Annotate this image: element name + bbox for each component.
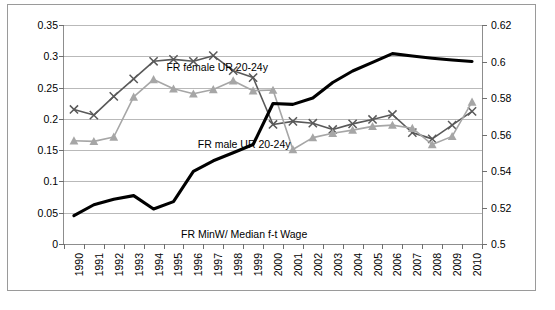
right-axis-tick <box>482 25 487 26</box>
x-axis-label: 2001 <box>293 253 304 276</box>
x-axis-tick <box>303 244 304 249</box>
left-axis-label: 0.05 <box>38 207 58 218</box>
x-axis-tick <box>243 244 244 249</box>
x-axis-tick <box>442 244 443 249</box>
left-axis-label: 0.1 <box>43 176 58 187</box>
x-axis-tick <box>144 244 145 249</box>
x-axis-label: 1997 <box>213 253 224 276</box>
x-axis-label: 2006 <box>392 253 403 276</box>
x-axis-tick <box>482 244 483 249</box>
x-axis-tick <box>84 244 85 249</box>
right-axis-label: 0.52 <box>491 202 511 213</box>
plot-area: 00.050.10.150.20.250.30.350.50.520.540.5… <box>63 25 483 244</box>
data-point-marker <box>130 75 138 83</box>
x-axis-label: 1996 <box>193 253 204 276</box>
left-axis-label: 0.2 <box>43 114 58 125</box>
series-annotation: FR MinW/ Median f-t Wage <box>181 229 307 240</box>
x-axis-tick <box>283 244 284 249</box>
x-axis-tick <box>363 244 364 249</box>
x-axis-tick <box>183 244 184 249</box>
right-axis-tick <box>482 208 487 209</box>
figure-caption <box>0 296 555 309</box>
x-axis-tick <box>343 244 344 249</box>
x-axis-label: 2002 <box>313 253 324 276</box>
x-axis-tick <box>382 244 383 249</box>
x-axis-tick <box>164 244 165 249</box>
chart-frame: 00.050.10.150.20.250.30.350.50.520.540.5… <box>7 4 536 291</box>
x-axis-label: 1993 <box>133 253 144 276</box>
right-axis-tick <box>482 171 487 172</box>
right-axis-label: 0.58 <box>491 93 511 104</box>
x-axis-tick <box>402 244 403 249</box>
x-axis-label: 2009 <box>452 253 463 276</box>
left-axis-label: 0.3 <box>43 51 58 62</box>
x-axis-label: 1999 <box>253 253 264 276</box>
right-axis-tick <box>482 62 487 63</box>
left-axis-label: 0 <box>52 239 58 250</box>
right-axis-tick <box>482 135 487 136</box>
x-axis-tick <box>104 244 105 249</box>
data-point-marker <box>229 76 238 84</box>
data-point-marker <box>468 98 477 106</box>
data-point-marker <box>110 92 118 100</box>
x-axis-tick <box>323 244 324 249</box>
right-axis-label: 0.56 <box>491 129 511 140</box>
x-axis-tick <box>124 244 125 249</box>
x-axis-tick <box>64 244 65 249</box>
x-axis-label: 2007 <box>412 253 423 276</box>
right-axis-label: 0.54 <box>491 166 511 177</box>
x-axis-tick <box>462 244 463 249</box>
x-axis-label: 2005 <box>372 253 383 276</box>
x-axis-label: 2010 <box>472 253 483 276</box>
left-axis-label: 0.15 <box>38 145 58 156</box>
x-axis-tick <box>422 244 423 249</box>
x-axis-tick <box>223 244 224 249</box>
x-axis-tick <box>203 244 204 249</box>
right-axis-label: 0.62 <box>491 20 511 31</box>
right-axis-label: 0.6 <box>491 56 506 67</box>
data-point-marker <box>149 75 158 83</box>
chart-figure: 00.050.10.150.20.250.30.350.50.520.540.5… <box>0 0 555 310</box>
x-axis-label: 1992 <box>114 253 125 276</box>
x-axis-label: 1994 <box>153 253 164 276</box>
left-axis-label: 0.25 <box>38 82 58 93</box>
x-axis-tick <box>263 244 264 249</box>
x-axis-label: 2003 <box>332 253 343 276</box>
x-axis-label: 2008 <box>432 253 443 276</box>
right-axis-label: 0.5 <box>491 239 506 250</box>
gridline <box>64 244 482 245</box>
right-axis-tick <box>482 98 487 99</box>
x-axis-label: 1990 <box>74 253 85 276</box>
data-point-marker <box>169 84 178 92</box>
left-axis-label: 0.35 <box>38 20 58 31</box>
x-axis-label: 1991 <box>94 253 105 276</box>
series-annotation: FR male UR 20-24y <box>198 139 291 150</box>
x-axis-label: 1998 <box>233 253 244 276</box>
data-point-marker <box>448 132 457 140</box>
data-point-marker <box>448 121 456 129</box>
series-layer <box>64 25 482 244</box>
x-axis-label: 1995 <box>173 253 184 276</box>
data-point-marker <box>249 73 257 81</box>
data-point-marker <box>109 133 118 141</box>
series-annotation: FR female UR 20-24y <box>166 62 268 73</box>
data-point-marker <box>209 85 218 93</box>
x-axis-label: 2000 <box>273 253 284 276</box>
x-axis-label: 2004 <box>352 253 363 276</box>
